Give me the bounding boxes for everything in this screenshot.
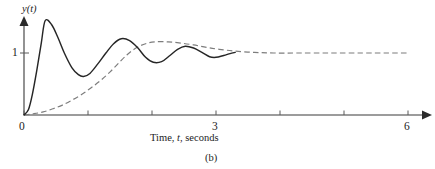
x-tick-label-3: 3	[212, 121, 218, 133]
y-axis-label: y(t)	[22, 4, 37, 15]
plot-canvas	[0, 0, 435, 169]
x-tick-label-0: 0	[19, 121, 25, 133]
x-tick-label-6: 6	[404, 121, 410, 133]
figure-caption: (b)	[205, 153, 217, 164]
series-slow-damped-response	[24, 42, 408, 115]
x-axis-arrow-icon	[422, 111, 432, 120]
y-axis-arrow-icon	[20, 16, 29, 26]
y-tick-label-1: 1	[12, 47, 18, 59]
figure-container: y(t) 1 0 3 6 Time, t, seconds (b)	[0, 0, 435, 169]
series-underdamped-response	[24, 20, 235, 115]
x-axis-ticks	[24, 111, 408, 116]
x-axis-label-suffix: , seconds	[180, 132, 219, 143]
x-axis-label-prefix: Time,	[150, 132, 177, 143]
x-axis-label: Time, t, seconds	[150, 133, 218, 144]
